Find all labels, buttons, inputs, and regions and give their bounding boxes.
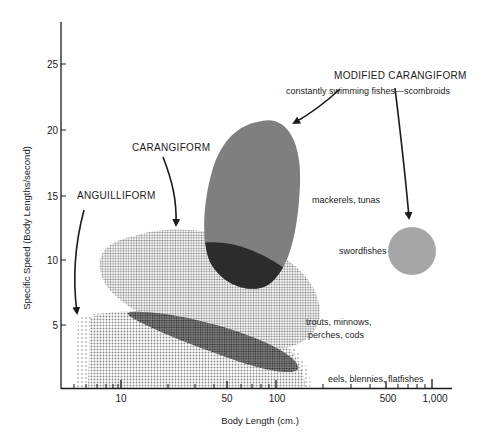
x-tick-100: 100	[269, 393, 286, 404]
x-tick-500: 500	[380, 393, 397, 404]
label-trouts-line2: perches, cods	[308, 330, 365, 340]
y-tick-20: 20	[47, 125, 59, 136]
arrow-anguilliform	[75, 210, 84, 313]
x-tick-10: 10	[115, 393, 127, 404]
x-tick-1000: 1,000	[422, 393, 447, 404]
label-anguilliform: ANGUILLIFORM	[77, 190, 156, 201]
region-swordfishes	[388, 227, 436, 275]
label-scombroids: constantly swimming fishes—scombroids	[286, 86, 451, 96]
y-tick-5: 5	[52, 320, 58, 331]
y-tick-15: 15	[47, 191, 59, 202]
label-swordfishes: swordfishes	[339, 246, 387, 256]
y-tick-10: 10	[47, 255, 59, 266]
x-axis-title: Body Length (cm.)	[221, 415, 299, 426]
label-trouts-line1: trouts, minnows,	[306, 317, 372, 327]
y-axis: 25 20 15 10 5 Specific Speed (Body Lengt…	[21, 22, 66, 389]
label-carangiform: CARANGIFORM	[132, 142, 210, 153]
y-axis-title: Specific Speed (Body Lengths/second)	[21, 146, 32, 310]
label-modified-carangiform: MODIFIED CARANGIFORM	[334, 70, 467, 81]
arrow-carangiform	[163, 157, 176, 225]
label-eels: eels, blennies, flatfishes	[328, 374, 424, 384]
x-tick-50: 50	[221, 393, 233, 404]
label-mackerels-tunas: mackerels, tunas	[312, 195, 381, 205]
arrow-swordfishes	[395, 88, 409, 218]
y-tick-25: 25	[47, 59, 59, 70]
chart: 25 20 15 10 5 Specific Speed (Body Lengt…	[0, 0, 481, 445]
